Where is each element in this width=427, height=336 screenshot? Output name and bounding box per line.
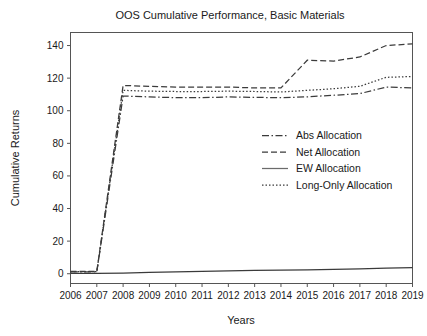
x-tick-label: 2015 (296, 290, 319, 301)
x-tick-label: 2007 (86, 290, 109, 301)
chart-container: OOS Cumulative Performance, Basic Materi… (0, 0, 427, 336)
legend-label: EW Allocation (296, 162, 361, 174)
x-tick-label: 2014 (270, 290, 293, 301)
x-tick-label: 2019 (401, 290, 424, 301)
y-axis-label: Cumulative Returns (9, 109, 21, 206)
x-tick-label: 2010 (165, 290, 188, 301)
y-tick-label: 0 (58, 268, 64, 279)
x-axis-label: Years (227, 314, 255, 326)
y-tick-label: 120 (47, 73, 64, 84)
x-tick-label: 2012 (217, 290, 240, 301)
y-tick-label: 140 (47, 40, 64, 51)
x-tick-label: 2011 (191, 290, 213, 301)
y-tick-label: 40 (52, 203, 64, 214)
chart-canvas: OOS Cumulative Performance, Basic Materi… (0, 0, 427, 336)
x-tick-label: 2013 (244, 290, 267, 301)
y-tick-label: 80 (52, 138, 64, 149)
x-tick-label: 2018 (375, 290, 398, 301)
chart-title: OOS Cumulative Performance, Basic Materi… (115, 9, 345, 21)
legend-label: Long-Only Allocation (296, 179, 392, 191)
y-tick-label: 20 (52, 236, 64, 247)
y-tick-label: 60 (52, 170, 64, 181)
x-tick-label: 2008 (112, 290, 135, 301)
x-tick-label: 2016 (322, 290, 345, 301)
chart-background (0, 0, 427, 336)
y-tick-label: 100 (47, 105, 64, 116)
legend-label: Abs Allocation (296, 129, 362, 141)
legend-label: Net Allocation (296, 146, 360, 158)
x-tick-label: 2009 (138, 290, 161, 301)
x-tick-label: 2006 (59, 290, 82, 301)
x-tick-label: 2017 (349, 290, 372, 301)
